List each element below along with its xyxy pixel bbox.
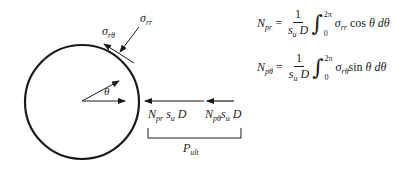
theta-angle-arrow — [82, 81, 119, 101]
lower-limit: 0 — [324, 29, 332, 38]
fraction: 1 su D — [289, 52, 309, 84]
p-ult-label: Pult — [183, 142, 199, 157]
lower-limit: 0 — [325, 73, 333, 82]
equation-lhs: Npθ — [257, 60, 273, 76]
n-symbol: N — [205, 107, 213, 121]
integrand: σrθsin θ dθ — [336, 60, 387, 76]
integral-sign: ∫ — [311, 13, 322, 35]
numerator: 1 — [293, 8, 303, 23]
p-subscript: ult — [190, 148, 198, 157]
n-subscript: pr — [156, 114, 163, 123]
integral: ∫ 2π0 — [311, 10, 332, 38]
n-subscript: pθ — [213, 114, 221, 123]
pipe-circle — [25, 45, 139, 159]
denominator: su D — [289, 67, 309, 84]
force-ptheta-label: Npθsu D — [205, 108, 241, 123]
denominator: su D — [288, 23, 308, 40]
equation-npr: Npr = 1 su D ∫ 2π0 σrr cos θ dθ — [257, 8, 390, 40]
s-subscript: u — [226, 114, 230, 123]
integrand: σrr cos θ dθ — [335, 16, 390, 32]
sigma-rtheta-arrow — [104, 44, 134, 63]
sigma-rtheta-subscript: rθ — [108, 31, 115, 40]
theta-label: θ — [104, 86, 109, 97]
equation-nptheta: Npθ = 1 su D ∫ 2π0 σrθsin θ dθ — [257, 52, 386, 84]
s-subscript: u — [171, 114, 175, 123]
sigma-rr-label: σrr — [140, 12, 152, 27]
d-symbol: D — [178, 107, 187, 121]
upper-limit: 2π — [325, 54, 333, 63]
equation-lhs: Npr — [257, 16, 272, 32]
d-symbol: D — [233, 107, 242, 121]
theta-symbol: θ — [104, 85, 109, 97]
p-ult-bracket — [148, 128, 241, 138]
n-symbol: N — [148, 107, 156, 121]
sigma-rr-arrow — [120, 27, 139, 52]
numerator: 1 — [294, 52, 304, 67]
sigma-rtheta-label: σrθ — [102, 25, 115, 40]
integral: ∫ 2π0 — [312, 54, 333, 82]
equals-sign: = — [275, 16, 282, 31]
integral-sign: ∫ — [312, 57, 323, 79]
equals-sign: = — [276, 60, 283, 75]
sigma-rr-subscript: rr — [146, 18, 152, 27]
upper-limit: 2π — [324, 10, 332, 19]
force-pr-label: Npr su D — [148, 108, 186, 123]
fraction: 1 su D — [288, 8, 308, 40]
